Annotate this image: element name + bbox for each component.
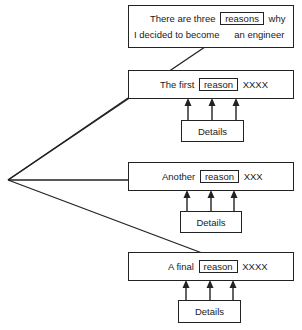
details-box-1: Details — [181, 120, 244, 142]
thesis-keyword: reasons — [220, 12, 264, 25]
arrow-head — [185, 98, 192, 106]
reason-keyword: reason — [200, 170, 239, 183]
arrows-reason-2 — [184, 190, 238, 211]
reason-line-2: Another reason XXX — [162, 170, 263, 183]
details-box-2: Details — [180, 211, 242, 233]
thesis-text-part1: I decided to become — [134, 29, 220, 40]
arrow-head — [233, 98, 240, 106]
thesis-text-part2: an engineer — [234, 29, 284, 40]
reason-keyword: reason — [199, 260, 238, 273]
arrow-head — [209, 98, 216, 106]
reason-prefix: The first — [160, 79, 194, 90]
connector-reason-1 — [8, 98, 128, 180]
details-box-3: Details — [178, 300, 241, 323]
reason-line-1: The first reason XXXX — [160, 78, 268, 91]
arrow-head — [184, 190, 191, 198]
reason-prefix: A final — [168, 261, 194, 272]
reason-suffix: XXXX — [242, 261, 267, 272]
reason-prefix: Another — [162, 171, 195, 182]
thesis-text-after: why — [269, 13, 286, 24]
arrow-head — [208, 190, 215, 198]
arrow-head — [207, 280, 214, 288]
reason-suffix: XXX — [244, 171, 263, 182]
arrow-head — [183, 280, 190, 288]
reason-keyword: reason — [199, 78, 238, 91]
thesis-line-1: There are three reasons why — [150, 12, 285, 25]
arrow-head — [231, 190, 238, 198]
arrows-reason-1 — [185, 98, 240, 120]
reason-line-3: A final reason XXXX — [168, 260, 268, 273]
reason-suffix: XXXX — [243, 79, 268, 90]
arrows-reason-3 — [183, 280, 237, 300]
thesis-text-before: There are three — [150, 13, 215, 24]
thesis-line-2: I decided to become an engineer — [134, 29, 284, 41]
arrow-head — [230, 280, 237, 288]
